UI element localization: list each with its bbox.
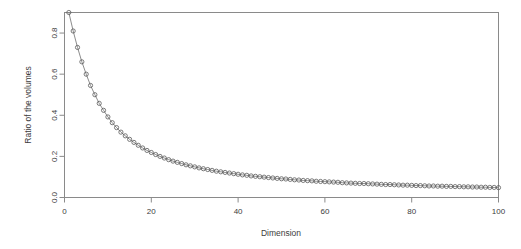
chart-figure: 020406080100 0.00.20.40.60.8 Dimension R… — [0, 0, 521, 249]
y-axis-ticks — [60, 33, 65, 197]
x-tick-label: 100 — [492, 207, 506, 216]
series-group — [67, 10, 501, 189]
x-axis-ticks — [65, 198, 499, 203]
x-tick-label: 0 — [62, 207, 67, 216]
y-tick-label: 0.2 — [50, 150, 59, 162]
x-axis-tick-labels: 020406080100 — [62, 207, 505, 216]
y-tick-label: 0.8 — [50, 27, 59, 39]
y-axis-tick-labels: 0.00.20.40.60.8 — [50, 27, 59, 203]
x-tick-label: 20 — [147, 207, 156, 216]
y-axis-title: Ratio of the volumes — [23, 66, 33, 143]
y-tick-label: 0.6 — [50, 68, 59, 80]
x-tick-label: 80 — [407, 207, 416, 216]
plot-frame — [65, 13, 499, 198]
plot-canvas: 020406080100 0.00.20.40.60.8 Dimension R… — [0, 0, 521, 249]
y-tick-label: 0.4 — [50, 109, 59, 121]
x-axis-title: Dimension — [261, 228, 301, 238]
x-tick-label: 40 — [234, 207, 243, 216]
y-tick-label: 0.0 — [50, 191, 59, 203]
x-tick-label: 60 — [320, 207, 329, 216]
series-markers — [67, 10, 501, 189]
